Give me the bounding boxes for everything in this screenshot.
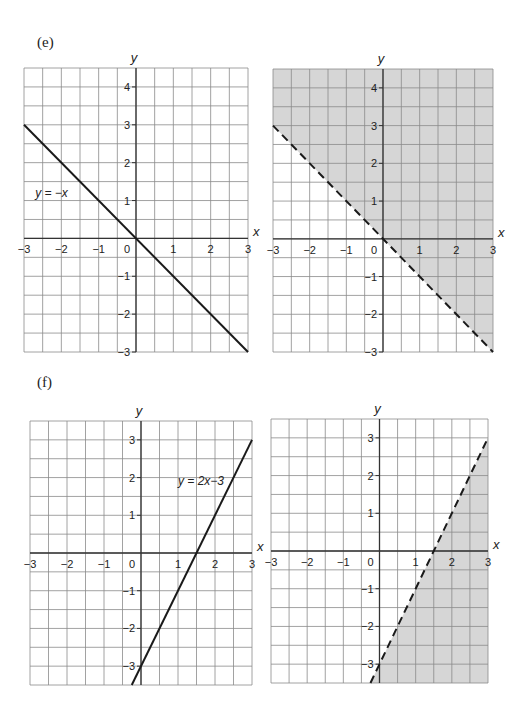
x-tick-label: −2: [303, 244, 316, 256]
y-tick-label: 1: [371, 195, 377, 207]
y-tick-label: −3: [117, 346, 130, 358]
x-tick-label: 2: [453, 244, 459, 256]
x-tick-label: −2: [55, 243, 68, 255]
y-tick-label: 3: [124, 119, 130, 131]
y-tick-label: −1: [122, 585, 135, 597]
x-tick-label: −3: [24, 558, 37, 570]
x-tick-label: 1: [413, 556, 419, 568]
y-tick-label: −3: [364, 346, 377, 358]
y-tick-label: −2: [117, 308, 130, 320]
x-axis-label: x: [492, 537, 500, 552]
y-tick-label: −1: [361, 583, 374, 595]
x-tick-label: −2: [301, 556, 314, 568]
y-tick-label: 3: [371, 120, 377, 132]
y-tick-label: 1: [367, 507, 373, 519]
equation-label: y = −x: [34, 186, 69, 200]
y-tick-label: 1: [124, 195, 130, 207]
x-axis-label: x: [252, 224, 260, 239]
y-tick-label: 2: [371, 157, 377, 169]
y-tick-label: 4: [371, 82, 377, 94]
y-tick-label: 2: [367, 470, 373, 482]
y-tick-label: −2: [122, 622, 135, 634]
y-tick-label: −1: [364, 271, 377, 283]
y-tick-label: −2: [361, 620, 374, 632]
y-tick-label: 2: [124, 157, 130, 169]
x-tick-label: 0: [124, 243, 130, 255]
y-tick-label: −2: [364, 308, 377, 320]
y-tick-label: −3: [361, 658, 374, 670]
y-axis-label: y: [130, 50, 139, 65]
x-tick-label: −1: [98, 558, 111, 570]
x-tick-label: 2: [208, 243, 214, 255]
y-tick-label: 2: [129, 472, 135, 484]
x-tick-label: 1: [175, 558, 181, 570]
y-tick-label: 4: [124, 81, 130, 93]
x-tick-label: 2: [212, 558, 218, 570]
x-tick-label: −1: [337, 556, 350, 568]
x-tick-label: −3: [18, 243, 31, 255]
graph-e-left: 4321−1−2−3−3−2−10123xyy = −x: [18, 50, 260, 358]
y-axis-label: y: [373, 401, 382, 416]
y-tick-label: −1: [117, 270, 130, 282]
graphs-canvas: 4321−1−2−3−3−2−10123xyy = −x4321−1−2−3−3…: [0, 0, 523, 714]
x-tick-label: 3: [490, 244, 496, 256]
y-axis-label: y: [135, 403, 144, 418]
y-tick-label: 3: [367, 432, 373, 444]
x-tick-label: 1: [417, 244, 423, 256]
y-tick-label: 1: [129, 509, 135, 521]
graph-e-right: 4321−1−2−3−3−2−10123xy: [267, 51, 505, 358]
x-tick-label: 0: [129, 558, 135, 570]
x-tick-label: 3: [485, 556, 491, 568]
x-tick-label: 0: [367, 556, 373, 568]
y-tick-label: 3: [129, 434, 135, 446]
x-tick-label: −3: [265, 556, 278, 568]
x-tick-label: −1: [92, 243, 105, 255]
x-tick-label: 2: [449, 556, 455, 568]
y-tick-label: −3: [122, 660, 135, 672]
x-axis-label: x: [256, 539, 264, 554]
x-tick-label: 3: [245, 243, 251, 255]
x-tick-label: 1: [170, 243, 176, 255]
x-tick-label: 3: [249, 558, 255, 570]
x-tick-label: −1: [340, 244, 353, 256]
equation-label: y = 2x−3: [177, 474, 224, 488]
x-axis-label: x: [497, 225, 505, 240]
graph-f-right: 321−1−2−3−3−2−10123xy: [265, 401, 500, 683]
graph-f-left: 321−1−2−3−3−2−10123xyy = 2x−3: [24, 403, 264, 685]
x-tick-label: −3: [267, 244, 280, 256]
x-tick-label: −2: [61, 558, 74, 570]
x-tick-label: 0: [371, 244, 377, 256]
y-axis-label: y: [377, 51, 386, 66]
